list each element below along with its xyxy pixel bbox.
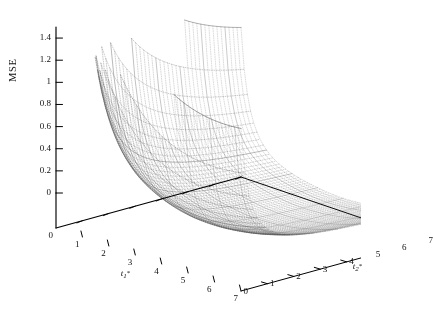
z-tick-label: 1.2 xyxy=(40,55,51,64)
x-tick-label: 2 xyxy=(101,249,106,258)
x-axis-title: t1* xyxy=(121,269,131,280)
y-axis-title: t2* xyxy=(353,262,363,273)
y-axis-title-star: * xyxy=(359,262,363,270)
z-tick-label: 0.6 xyxy=(40,122,51,131)
y-tick-label: 2 xyxy=(296,272,301,281)
z-tick-label: 1.4 xyxy=(40,33,51,42)
x-tick-label: 1 xyxy=(75,240,80,249)
y-tick-label: 6 xyxy=(402,243,407,252)
z-tick-label: 0 xyxy=(47,188,52,197)
z-tick-label: 0.2 xyxy=(40,166,51,175)
z-tick-label: 1 xyxy=(47,77,52,86)
y-tick-label: 0 xyxy=(244,287,249,296)
y-tick-label: 3 xyxy=(323,265,328,274)
z-tick-label: 0.8 xyxy=(40,99,51,108)
y-tick-label: 5 xyxy=(376,250,381,259)
y-tick-label: 1 xyxy=(270,279,275,288)
x-tick-label: 7 xyxy=(234,294,239,303)
x-tick-label: 5 xyxy=(181,276,186,285)
x-tick-label: 4 xyxy=(154,267,159,276)
x-tick-label: 3 xyxy=(128,258,133,267)
z-axis-title: MSE xyxy=(8,59,19,82)
x-axis-title-star: * xyxy=(127,269,131,277)
y-tick-label: 7 xyxy=(429,236,433,245)
x-tick-label: 0 xyxy=(49,231,54,240)
z-tick-label: 0.4 xyxy=(40,144,51,153)
x-tick-label: 6 xyxy=(207,285,212,294)
